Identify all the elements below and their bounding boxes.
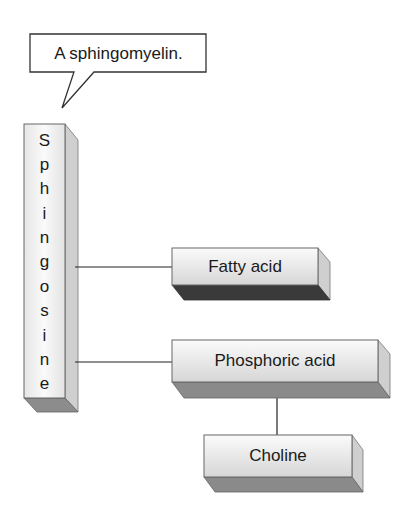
sphingosine-letter: i	[43, 205, 47, 222]
sphingosine-letter: s	[40, 302, 49, 319]
callout-text: A sphingomyelin.	[31, 35, 206, 72]
sphingosine-letter: o	[40, 278, 49, 295]
choline-label: Choline	[204, 435, 352, 477]
fatty-acid-label: Fatty acid	[172, 248, 318, 285]
sphingosine-letter: h	[40, 180, 49, 197]
phosphoric-acid-label: Phosphoric acid	[172, 340, 378, 382]
sphingosine-label: S p h i n g o s i n e	[24, 128, 65, 396]
sphingosine-letter: p	[40, 156, 49, 173]
sphingosine-letter: e	[40, 375, 49, 392]
sphingosine-letter: i	[43, 327, 47, 344]
sphingosine-letter: g	[40, 253, 49, 270]
sphingosine-letter: n	[40, 351, 49, 368]
sphingosine-letter: S	[39, 132, 50, 149]
sphingosine-letter: n	[40, 229, 49, 246]
